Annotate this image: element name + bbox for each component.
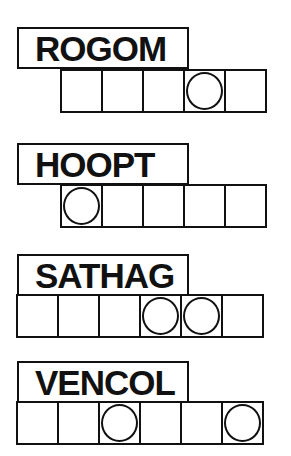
answer-cell[interactable] bbox=[16, 401, 59, 445]
answer-row bbox=[16, 401, 264, 445]
answer-cell[interactable] bbox=[57, 401, 100, 445]
scrambled-word-box: ROGOM bbox=[17, 27, 189, 69]
answer-cell[interactable] bbox=[183, 184, 226, 228]
answer-cell[interactable] bbox=[180, 401, 223, 445]
answer-cell[interactable] bbox=[101, 184, 144, 228]
scrambled-word: ROGOM bbox=[35, 31, 166, 66]
answer-row bbox=[60, 184, 267, 228]
scrambled-word-box: HOOPT bbox=[17, 143, 189, 185]
scrambled-word-box: VENCOL bbox=[17, 361, 189, 403]
scrambled-word: SATHAG bbox=[35, 258, 174, 293]
scrambled-word: HOOPT bbox=[35, 147, 154, 182]
answer-cell[interactable] bbox=[60, 69, 103, 113]
answer-cell[interactable] bbox=[142, 69, 185, 113]
answer-cell-circled[interactable] bbox=[98, 401, 141, 445]
answer-cell-circled[interactable] bbox=[180, 294, 223, 338]
answer-cell[interactable] bbox=[139, 401, 182, 445]
answer-row bbox=[60, 69, 267, 113]
answer-cell[interactable] bbox=[142, 184, 185, 228]
scrambled-word: VENCOL bbox=[35, 365, 175, 400]
answer-row bbox=[16, 294, 264, 338]
answer-cell-circled[interactable] bbox=[221, 401, 264, 445]
answer-cell-circled[interactable] bbox=[60, 184, 103, 228]
answer-cell[interactable] bbox=[16, 294, 59, 338]
scrambled-word-box: SATHAG bbox=[17, 254, 189, 296]
answer-cell[interactable] bbox=[101, 69, 144, 113]
answer-cell-circled[interactable] bbox=[139, 294, 182, 338]
answer-cell[interactable] bbox=[224, 184, 267, 228]
answer-cell[interactable] bbox=[221, 294, 264, 338]
answer-cell[interactable] bbox=[98, 294, 141, 338]
answer-cell-circled[interactable] bbox=[183, 69, 226, 113]
answer-cell[interactable] bbox=[224, 69, 267, 113]
answer-cell[interactable] bbox=[57, 294, 100, 338]
